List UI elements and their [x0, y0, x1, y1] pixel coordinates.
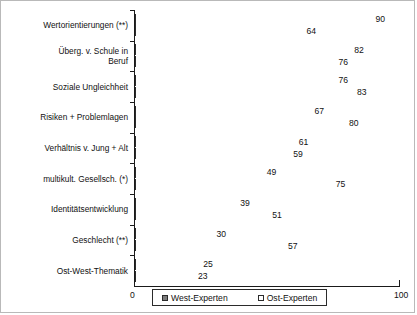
legend-label-west: West-Experten: [171, 293, 228, 303]
bar-value-label: 25: [203, 259, 213, 269]
x-axis-tick-min: 0: [130, 290, 135, 300]
x-axis-end-tick: [399, 280, 400, 287]
bar-west[interactable]: 64: [134, 25, 304, 36]
bar-value-label: 51: [272, 210, 282, 220]
category-label: Ost-West-Thematik: [2, 265, 128, 275]
category-label: Verhältnis v. Jung + Alt: [2, 143, 128, 153]
bar-value-label: 39: [240, 198, 250, 208]
bar-west[interactable]: 76: [134, 56, 335, 67]
bar-value-label: 61: [299, 137, 309, 147]
bar-value-label: 49: [267, 167, 277, 177]
bar-value-label: 67: [315, 106, 325, 116]
bar-ost[interactable]: 90: [134, 14, 373, 25]
category-label: Soziale Ungleichheit: [2, 81, 128, 91]
chart-category-row: Geschlecht (**)3057: [134, 225, 399, 256]
category-label: Geschlecht (**): [2, 235, 128, 245]
category-label: Risiken + Problemlagen: [2, 112, 128, 122]
legend-entry-west-experten: West-Experten: [162, 293, 228, 303]
bar-value-label: 80: [349, 118, 359, 128]
bar-west[interactable]: 51: [134, 209, 269, 220]
bar-ost[interactable]: 82: [134, 44, 351, 55]
chart-category-row: Ost-West-Thematik2523: [134, 255, 399, 286]
legend-swatch-icon-west: [162, 295, 168, 301]
chart-legend: West-Experten Ost-Experten: [152, 289, 327, 306]
bar-ost[interactable]: 30: [134, 228, 214, 239]
bar-west[interactable]: 83: [134, 87, 354, 98]
bar-west[interactable]: 75: [134, 179, 333, 190]
category-label: multikult. Gesellsch. (*): [2, 173, 128, 183]
y-axis-line: [134, 10, 135, 287]
bar-ost[interactable]: 49: [134, 167, 264, 178]
chart-category-row: Identitätsentwicklung3951: [134, 194, 399, 225]
bar-west[interactable]: 59: [134, 148, 290, 159]
bar-value-label: 23: [198, 271, 208, 281]
chart-frame: Wertorientierungen (**)9064Überg. v. Sch…: [0, 0, 415, 313]
bar-west[interactable]: 80: [134, 117, 346, 128]
bar-value-label: 76: [338, 57, 348, 67]
chart-category-row: Wertorientierungen (**)9064: [134, 10, 399, 41]
chart-category-row: Überg. v. Schule in Beruf8276: [134, 41, 399, 72]
bar-value-label: 83: [357, 87, 367, 97]
x-axis-tick-max: 100: [394, 290, 408, 300]
bar-value-label: 76: [338, 75, 348, 85]
legend-swatch-icon-ost: [258, 295, 264, 301]
category-label: Wertorientierungen (**): [2, 20, 128, 30]
bar-value-label: 90: [376, 14, 386, 24]
bar-west[interactable]: 23: [134, 271, 195, 282]
bar-ost[interactable]: 76: [134, 75, 335, 86]
category-label: Identitätsentwicklung: [2, 204, 128, 214]
plot-area: Wertorientierungen (**)9064Überg. v. Sch…: [134, 10, 399, 286]
chart-category-row: Soziale Ungleichheit7683: [134, 71, 399, 102]
bar-value-label: 64: [307, 26, 317, 36]
bar-value-label: 59: [293, 149, 303, 159]
chart-category-row: Risiken + Problemlagen6780: [134, 102, 399, 133]
legend-label-ost: Ost-Experten: [267, 293, 318, 303]
bar-ost[interactable]: 61: [134, 136, 296, 147]
chart-category-row: Verhältnis v. Jung + Alt6159: [134, 133, 399, 164]
bar-value-label: 75: [336, 179, 346, 189]
bar-value-label: 30: [217, 229, 227, 239]
legend-entry-ost-experten: Ost-Experten: [258, 293, 318, 303]
x-axis-line: [134, 286, 400, 287]
bar-ost[interactable]: 25: [134, 259, 200, 270]
bar-ost[interactable]: 67: [134, 106, 312, 117]
bar-value-label: 57: [288, 241, 298, 251]
bar-ost[interactable]: 39: [134, 198, 237, 209]
bar-west[interactable]: 57: [134, 240, 285, 251]
category-label: Überg. v. Schule in Beruf: [2, 46, 128, 67]
bar-value-label: 82: [354, 45, 364, 55]
chart-category-row: multikult. Gesellsch. (*)4975: [134, 163, 399, 194]
